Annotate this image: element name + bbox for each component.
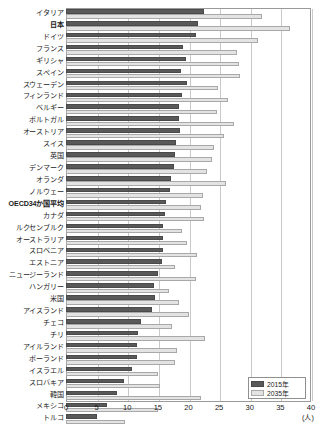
row-bars [66,270,311,282]
legend-swatch-2035 [251,390,264,397]
bar-2015年 [66,33,196,38]
row-bars [66,175,311,187]
chart-row: オーストリア [0,127,322,139]
x-tick-label: 5 [95,403,99,412]
bar-2015年 [66,116,179,121]
category-label: フランス [0,44,64,56]
category-label: ギリシャ [0,56,64,68]
category-label: ニュージーランド [0,270,64,282]
bar-2015年 [66,331,138,336]
row-bars [66,20,311,32]
row-bars [66,103,311,115]
bar-2035年 [66,98,228,103]
x-tick-label: 40 [307,403,315,412]
category-label: スペイン [0,68,64,80]
row-bars [66,294,311,306]
chart-row: アイルランド [0,342,322,354]
chart-row: 英国 [0,151,322,163]
bar-2015年 [66,391,117,396]
bar-2035年 [66,122,234,127]
category-label: チリ [0,330,64,342]
chart-row: カナダ [0,211,322,223]
row-bars [66,366,311,378]
category-label: スロバキア [0,378,64,390]
bar-2035年 [66,38,258,43]
category-label: メキシコ [0,401,64,413]
category-label: イスラエル [0,366,64,378]
row-bars [66,223,311,235]
bar-2035年 [66,86,218,91]
bar-2015年 [66,307,152,312]
row-bars [66,306,311,318]
chart-row: 米国 [0,294,322,306]
bar-2035年 [66,420,125,425]
bar-2015年 [66,69,181,74]
chart-row: OECD34か国平均 [0,199,322,211]
row-bars [66,199,311,211]
bar-rows: イタリア日本ドイツフランスギリシャスペインスウェーデンフィンランドベルギーポルト… [0,8,322,425]
row-bars [66,68,311,80]
category-label: ベルギー [0,103,64,115]
bar-2035年 [66,110,217,115]
bar-2015年 [66,140,176,145]
chart-row: ベルギー [0,103,322,115]
legend-item-2035: 2035年 [251,389,303,397]
row-bars [66,211,311,223]
category-label: 韓国 [0,390,64,402]
row-bars [66,330,311,342]
category-label: ノルウェー [0,187,64,199]
chart-row: イスラエル [0,366,322,378]
row-bars [66,354,311,366]
bar-2015年 [66,367,132,372]
bar-2035年 [66,217,204,222]
category-label: チェコ [0,318,64,330]
bar-2035年 [66,181,226,186]
chart-legend: 2015年 2035年 [248,377,306,399]
bar-2035年 [66,289,169,294]
bar-2035年 [66,396,201,401]
bar-2015年 [66,283,154,288]
bar-2015年 [66,176,171,181]
bar-2035年 [66,336,205,341]
bar-2015年 [66,152,175,157]
bar-2035年 [66,145,214,150]
bar-2015年 [66,200,166,205]
row-bars [66,163,311,175]
chart-row: スウェーデン [0,80,322,92]
bar-2015年 [66,271,158,276]
bar-2015年 [66,188,170,193]
bar-2035年 [66,169,207,174]
bar-2035年 [66,312,189,317]
bar-2035年 [66,62,239,67]
bar-2035年 [66,26,290,31]
bar-2035年 [66,157,212,162]
chart-row: イタリア [0,8,322,20]
chart-row: スロベニア [0,246,322,258]
bar-2015年 [66,248,163,253]
bar-2015年 [66,212,165,217]
category-label: ポルトガル [0,115,64,127]
category-label: 日本 [0,20,64,32]
row-bars [66,139,311,151]
category-label: イタリア [0,8,64,20]
bar-2035年 [66,384,160,389]
row-bars [66,151,311,163]
chart-row: 日本 [0,20,322,32]
bar-2015年 [66,355,137,360]
x-tick-label: 20 [184,403,192,412]
x-tick-label: 15 [154,403,162,412]
chart-row: チェコ [0,318,322,330]
bar-2035年 [66,193,203,198]
bar-2015年 [66,343,137,348]
chart-row: オランダ [0,175,322,187]
category-label: トルコ [0,413,64,425]
bar-2015年 [66,224,163,229]
bar-2035年 [66,360,175,365]
x-tick-label: 0 [64,403,68,412]
category-label: フィンランド [0,91,64,103]
category-label: スウェーデン [0,80,64,92]
x-tick-label: 30 [246,403,254,412]
category-label: 米国 [0,294,64,306]
bar-2035年 [66,134,224,139]
category-label: オーストリア [0,127,64,139]
